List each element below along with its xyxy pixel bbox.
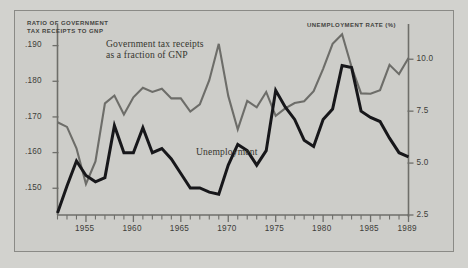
- x-tick-label: 1975: [265, 224, 284, 233]
- left-tick-label: .150: [25, 183, 42, 192]
- series-label-unemployment: Unemployment: [196, 146, 258, 157]
- x-tick-label: 1970: [217, 224, 236, 233]
- x-tick-label: 1955: [75, 224, 94, 233]
- chart-page: RATIO OF GOVERNMENTTAX RECEIPTS TO GNP U…: [0, 0, 468, 268]
- series-label-tax-receipts: Government tax receiptsas a fraction of …: [106, 38, 204, 61]
- x-tick-label: 1960: [122, 224, 141, 233]
- right-tick-label: 7.5: [417, 106, 429, 115]
- series-group: [58, 34, 409, 213]
- right-tick-label: 5.0: [417, 158, 429, 167]
- x-tick-label: 1965: [170, 224, 189, 233]
- right-tick-label: 10.0: [417, 54, 434, 63]
- left-axis-title: RATIO OF GOVERNMENTTAX RECEIPTS TO GNP: [27, 20, 108, 35]
- left-tick-label: .190: [25, 40, 42, 49]
- left-tick-label: .160: [25, 147, 42, 156]
- right-tick-label: 2.5: [417, 210, 429, 219]
- x-tick-label: 1989: [398, 224, 417, 233]
- plot-area: RATIO OF GOVERNMENTTAX RECEIPTS TO GNP U…: [0, 0, 468, 268]
- left-tick-label: .170: [25, 112, 42, 121]
- left-tick-label: .180: [25, 76, 42, 85]
- right-axis-title: UNEMPLOYMENT RATE (%): [307, 22, 396, 30]
- x-tick-label: 1985: [360, 224, 379, 233]
- x-tick-label: 1980: [312, 224, 331, 233]
- series-unemployment: [58, 65, 409, 212]
